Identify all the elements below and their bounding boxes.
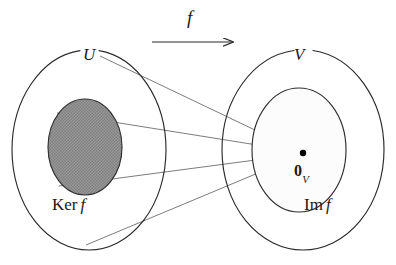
linear-map-diagram: f U V Kerf Imf 0V: [0, 0, 396, 265]
image-label: Imf: [304, 196, 331, 213]
image-label-map: f: [326, 195, 331, 214]
map-label-f: f: [187, 8, 192, 27]
zero-vector-subscript: V: [302, 173, 309, 185]
kernel-label-prefix: Ker: [52, 195, 77, 214]
kernel-label: Kerf: [52, 196, 85, 213]
codomain-label-V: V: [294, 46, 304, 63]
zero-vector-point: [300, 150, 306, 156]
image-label-prefix: Im: [304, 195, 323, 214]
domain-label-U: U: [83, 46, 95, 63]
image-ellipse: [252, 88, 346, 212]
zero-vector-glyph: 0: [294, 162, 302, 179]
kernel-label-map: f: [80, 195, 85, 214]
diagram-canvas: [0, 0, 396, 265]
zero-vector-label: 0V: [294, 163, 309, 182]
kernel-ellipse-shaded: [48, 99, 122, 195]
